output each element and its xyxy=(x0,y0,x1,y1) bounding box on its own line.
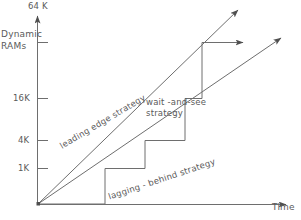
y-axis-title-line2: RAMs xyxy=(1,41,26,52)
y-tick-label-16k: 16K xyxy=(13,93,30,103)
origin-marker xyxy=(37,202,41,206)
y-tick-label-1k: 1K xyxy=(18,163,29,173)
y-axis-title-line1: Dynamic xyxy=(1,29,42,40)
x-axis-title: Time xyxy=(272,202,295,213)
label-wait-and-see-strategy-line1: wait -and-see xyxy=(146,97,206,107)
label-wait-and-see-strategy-line2: strategy xyxy=(146,108,183,118)
y-axis-top-label: 64 K xyxy=(28,1,48,11)
series-leading-edge-line xyxy=(38,10,238,204)
chart-canvas: 64 K Dynamic RAMs 16K 4K 1K Time leading… xyxy=(0,0,301,220)
y-tick-label-4k: 4K xyxy=(18,135,29,145)
